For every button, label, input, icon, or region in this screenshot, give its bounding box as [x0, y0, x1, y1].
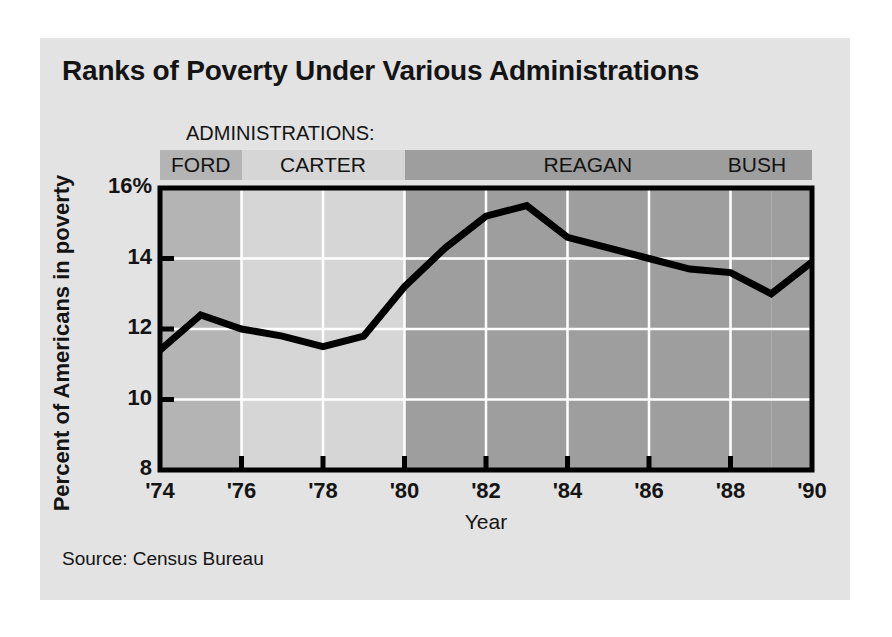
plot-area [0, 0, 892, 637]
poverty-chart-figure: Ranks of Poverty Under Various Administr… [0, 0, 892, 637]
